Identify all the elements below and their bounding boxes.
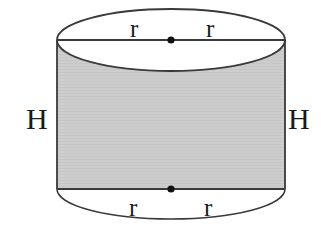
- top-ellipse-back-arc: [57, 9, 285, 40]
- height-label-right: H: [288, 104, 310, 134]
- cylinder-figure: r r r r H H: [0, 0, 321, 248]
- bottom-ellipse-front-arc: [57, 189, 285, 219]
- radius-label-top-left: r: [130, 16, 138, 41]
- cylinder-drawing: [0, 0, 321, 248]
- radius-label-top-right: r: [206, 16, 214, 41]
- height-label-left: H: [26, 104, 48, 134]
- radius-label-bottom-right: r: [204, 195, 212, 220]
- radius-label-bottom-left: r: [129, 195, 137, 220]
- top-center-dot: [167, 36, 174, 43]
- bottom-center-dot: [167, 185, 174, 192]
